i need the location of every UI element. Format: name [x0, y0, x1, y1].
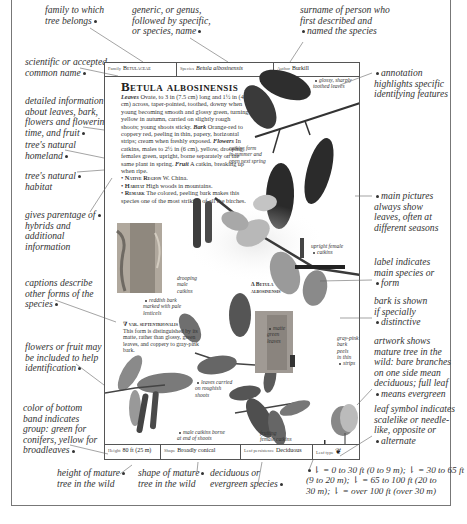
- annotation-line: label indicates: [374, 257, 434, 268]
- annotation-line: named the species: [300, 26, 390, 37]
- pointer-dot-icon: [78, 367, 81, 370]
- annotation-line: habitat: [25, 182, 83, 193]
- variety-caption: ∇ var. septentrionalis This form is dist…: [123, 321, 209, 354]
- annotation-line: species: [25, 299, 94, 310]
- variety-title: ∇ var. septentrionalis: [123, 321, 209, 328]
- species-page: FamilyBetulaceae SpeciesBetula albosinen…: [104, 62, 360, 460]
- annotation-line: generic, or genus,: [132, 5, 211, 16]
- pointer-dot-icon: [376, 195, 379, 198]
- mature-tree-artwork-icon: [320, 404, 360, 446]
- caption-line: catkins: [177, 288, 197, 294]
- persistence-cell: Leaf persistenceDeciduous: [241, 445, 313, 459]
- pointer-dot-icon: [145, 300, 147, 302]
- caption-matte-leaves: matte green leaves: [267, 325, 285, 344]
- annotation-line: ⇂ = 0 to 30 ft (0 to 9 m); ⇂ = 30 to 65 …: [306, 465, 464, 475]
- annotation-line: annotation: [374, 68, 448, 79]
- annotation-line: surname of person who: [300, 5, 390, 16]
- annotation-author: surname of person who first described an…: [300, 5, 390, 37]
- pointer-dot-icon: [98, 214, 101, 217]
- annotation-line: different seasons: [374, 223, 438, 234]
- caption-line: strips: [337, 360, 359, 366]
- pointer-dot-icon: [72, 450, 75, 453]
- caption-line: marked with pale: [143, 303, 181, 309]
- height-cell: Height80 ft (25 m): [105, 445, 161, 459]
- annotation-line: broadleaves: [23, 445, 97, 456]
- pointer-dot-icon: [308, 469, 311, 472]
- caption-line: lenticels: [143, 310, 181, 316]
- annotation-habitat: tree's natural habitat: [25, 171, 83, 192]
- pointer-dot-icon: [78, 175, 81, 178]
- pointer-dot-icon: [197, 382, 199, 384]
- pointer-dot-icon: [83, 72, 86, 75]
- caption-gray-pink-bark: gray-pink bark peels in thin strips: [337, 335, 359, 366]
- annotation-line: main pictures: [374, 191, 438, 202]
- pointer-dot-icon: [315, 80, 317, 82]
- tree-medium-icon: ⇂: [408, 465, 416, 475]
- annotation-line: color of bottom: [23, 403, 97, 414]
- pointer-dot-icon: [376, 321, 379, 324]
- shape-cell: ShapeBroadly conical: [161, 445, 241, 459]
- annotation-line: tree belongs: [45, 16, 104, 27]
- pointer-dot-icon: [280, 483, 283, 486]
- bottom-band: Height80 ft (25 m) ShapeBroadly conical …: [105, 444, 359, 459]
- annotation-common-name: scientific or accepted common name: [25, 57, 107, 78]
- annotation-highlight: annotation highlights specific identifyi…: [374, 68, 448, 100]
- annotation-parentage: gives parentage of hybrids and additiona…: [25, 210, 103, 252]
- caption-drooping-male: drooping male catkins: [177, 275, 197, 294]
- caption-catkins-form: catkins form in summer and open next spr…: [229, 145, 266, 164]
- annotation-height-key: ⇂ = 0 to 30 ft (0 to 9 m); ⇂ = 30 to 65 …: [306, 465, 464, 496]
- height-label: Height: [108, 448, 121, 453]
- caption-line: shoots: [195, 392, 232, 398]
- tree-small-icon: ⇂: [313, 465, 321, 475]
- shape-label: Shape: [164, 448, 175, 453]
- annotation-line: identification: [25, 363, 102, 374]
- shape-value: Broadly conical: [177, 447, 215, 453]
- caption-rough-shoots: leaves carried on roughish shoots: [195, 379, 232, 398]
- pointer-dot-icon: [376, 393, 379, 396]
- pointer-dot-icon: [122, 472, 125, 475]
- pointer-dot-icon: [376, 72, 379, 75]
- annotation-persistence: deciduous or evergreen species: [210, 468, 285, 489]
- annotation-line: leaf symbol indicates: [374, 404, 455, 415]
- annotation-line: artwork shows: [374, 336, 451, 347]
- illustrations: [105, 63, 360, 460]
- caption-upright-female: upright female catkins: [311, 243, 343, 256]
- caption-line: leaves: [267, 338, 285, 344]
- pointer-dot-icon: [82, 132, 85, 135]
- annotation-line: time, and fruit: [25, 128, 109, 139]
- main-species-label: Δ Betula albosinensis: [251, 281, 281, 294]
- pointer-dot-icon: [313, 252, 315, 254]
- annotation-line: captions describe: [25, 278, 94, 289]
- tree-large-icon: ⇂: [352, 475, 360, 485]
- pointer-dot-icon: [55, 303, 58, 306]
- annotation-line: 30 m); ⇂ = over 100 ft (over 30 m): [306, 486, 464, 496]
- annotation-height: height of mature tree in the wild: [57, 468, 127, 489]
- annotation-genus: generic, or genus, followed by specific,…: [132, 5, 211, 37]
- leaf-type-icon: ❦: [335, 447, 342, 456]
- pointer-dot-icon: [376, 440, 379, 443]
- caption-line: toothed leaves: [313, 83, 352, 89]
- caption-line: in summer and: [229, 151, 266, 157]
- annotation-band-color: color of bottom band indicates group: gr…: [23, 403, 97, 456]
- annotation-main-pictures: main pictures always show leaves, often …: [374, 191, 438, 233]
- annotation-line: evergreen species: [210, 479, 285, 490]
- annotation-family: family to which tree belongs: [45, 5, 104, 26]
- annotation-line: bark is shown: [374, 296, 427, 307]
- caption-line: albosinensis: [251, 288, 281, 295]
- caption-line: female catkins: [260, 436, 292, 442]
- annotation-line: distinctive: [374, 317, 427, 328]
- pointer-dot-icon: [65, 155, 68, 158]
- pointer-dot-icon: [94, 20, 97, 23]
- annotation-artwork: artwork shows mature tree in the wild: b…: [374, 336, 451, 400]
- pointer-dot-icon: [269, 328, 271, 330]
- annotation-detailed-info: detailed information about leaves, bark,…: [25, 96, 109, 138]
- persistence-value: Deciduous: [276, 447, 302, 453]
- pointer-dot-icon: [339, 363, 341, 365]
- caption-reddish-bark: reddish bark marked with pale lenticels: [143, 297, 181, 316]
- annotation-line: form: [374, 278, 434, 289]
- variety-text: This form is distinguished by its matte,…: [123, 328, 209, 354]
- annotation-line: alternate: [374, 436, 455, 447]
- annotation-leaf-symbol: leaf symbol indicates scalelike or needl…: [374, 404, 455, 446]
- caption-line: open next spring: [229, 158, 266, 164]
- annotation-line: common name: [25, 68, 107, 79]
